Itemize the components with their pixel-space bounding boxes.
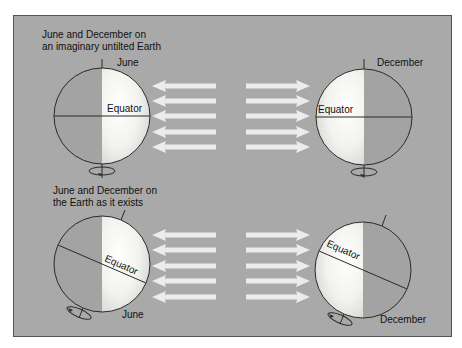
sun-arrows-right-top <box>246 80 310 153</box>
diagram-canvas: June and December on an imaginary untilt… <box>0 0 462 348</box>
top-panel: June and December on an imaginary untilt… <box>42 29 424 178</box>
globe-june-tilted: June Equator <box>54 210 150 322</box>
sun-arrows-right-bottom <box>246 229 310 303</box>
globe-december-tilted-month: December <box>380 314 427 325</box>
bottom-caption-line1: June and December on <box>53 185 157 196</box>
globe-december-equator-label: Equator <box>318 104 354 115</box>
globe-december-tilted: December Equator <box>315 215 427 328</box>
globe-june-untilted: June Equator <box>54 57 150 178</box>
sun-arrows-left-bottom <box>152 229 216 303</box>
diagram-stage: June and December on an imaginary untilt… <box>0 0 462 348</box>
top-caption-line1: June and December on <box>42 29 146 40</box>
top-caption-line2: an imaginary untilted Earth <box>42 41 161 52</box>
globe-december-untilted: December Equator <box>316 57 424 178</box>
bottom-panel: June and December on the Earth as it exi… <box>53 185 427 328</box>
globe-june-tilted-month: June <box>122 309 144 320</box>
globe-june-month: June <box>117 57 139 68</box>
bottom-caption-line2: the Earth as it exists <box>53 197 143 208</box>
globe-june-equator-label: Equator <box>107 103 143 114</box>
globe-december-month: December <box>377 57 424 68</box>
sun-arrows-left-top <box>152 80 216 153</box>
